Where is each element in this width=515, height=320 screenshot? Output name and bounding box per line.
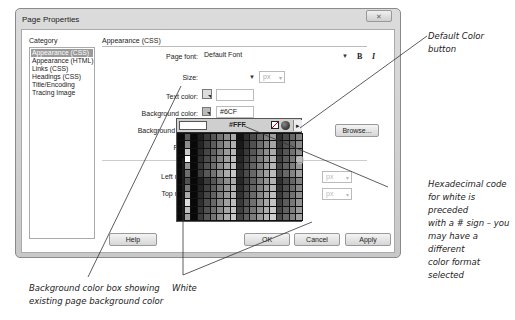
annotation-background-color-box: Background color box showing existing pa…: [29, 282, 163, 308]
annotation-default-color: Default Color button: [428, 30, 484, 56]
annotation-white: White: [172, 282, 197, 295]
annotation-hex-code: Hexadecimal code for white is preceded w…: [428, 178, 515, 282]
